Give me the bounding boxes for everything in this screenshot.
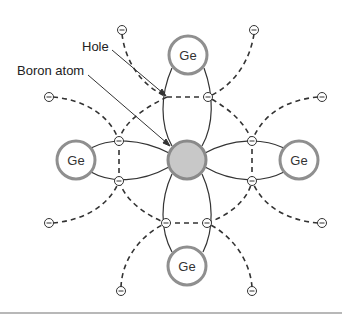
electron-icon [250, 26, 259, 35]
ge-top-label: Ge [179, 48, 196, 63]
bond-right-bottom [205, 167, 284, 180]
bond-bottom-left [163, 174, 172, 252]
bond-left-bottom [91, 167, 169, 180]
ge-left-label: Ge [67, 153, 84, 168]
electron-icon [248, 137, 257, 146]
bond-top-left [163, 68, 172, 146]
electron-icon [204, 93, 213, 102]
bond-left-top [91, 141, 169, 153]
electron-icon [318, 93, 327, 102]
boron-atom [168, 141, 206, 179]
electron-icon [248, 177, 257, 186]
bond-bottom-right [202, 174, 211, 252]
ge-right-label: Ge [290, 153, 307, 168]
diagram-canvas: Ge Ge Ge Ge Hole Boron atom [0, 0, 342, 317]
electron-icon [248, 287, 257, 296]
boron-leader [88, 75, 168, 144]
electron-icon [45, 93, 54, 102]
electron-icon [115, 137, 124, 146]
ge-bottom-label: Ge [178, 259, 195, 274]
divider [0, 312, 342, 314]
electron-icon [318, 219, 327, 228]
bond-right-top [205, 141, 284, 153]
atoms: Ge Ge Ge Ge [57, 36, 318, 285]
electron-icon [203, 219, 212, 228]
hole-leader [112, 50, 164, 94]
electron-icon [117, 287, 126, 296]
leader-lines [88, 50, 170, 146]
lattice-diagram: Ge Ge Ge Ge [0, 0, 342, 317]
boron-atom-label: Boron atom [17, 64, 84, 77]
hole-label: Hole [82, 40, 109, 53]
electron-icon [115, 177, 124, 186]
electron-icon [118, 26, 127, 35]
electron-icon [45, 219, 54, 228]
electron-icon [162, 219, 171, 228]
bond-top-right [202, 68, 211, 146]
